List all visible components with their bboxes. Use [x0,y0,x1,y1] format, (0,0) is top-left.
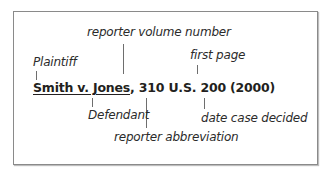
connector-date [204,98,205,109]
citation-volume: 310 [139,80,165,95]
citation-page: 200 [200,80,226,95]
citation-year: (2000) [230,80,275,95]
connector-plaintiff [36,71,37,80]
label-reporter-abbreviation: reporter abbreviation [114,130,239,144]
label-defendant: Defendant [88,108,149,122]
connector-volume [123,44,124,74]
citation: Smith v. Jones, 310 U.S. 200 (2000) [33,80,275,95]
label-reporter-volume-number: reporter volume number [87,25,231,39]
label-date-case-decided: date case decided [201,111,307,125]
label-first-page: first page [190,48,245,62]
citation-reporter: U.S. [168,80,196,95]
connector-defendant [92,98,93,107]
citation-separator: , [130,80,139,95]
label-plaintiff: Plaintiff [33,55,77,69]
connector-first-page [197,65,198,74]
citation-case-name: Smith v. Jones [33,80,130,95]
